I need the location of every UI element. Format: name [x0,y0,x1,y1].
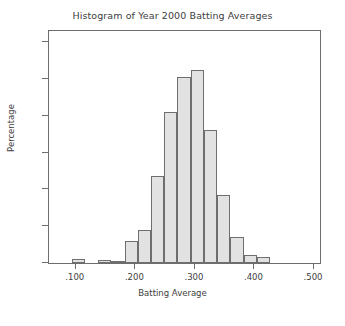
histogram-bar [204,130,217,263]
histogram-bar [177,77,190,263]
x-axis-tick-label: .300 [174,272,214,282]
histogram-bar [230,237,243,263]
y-axis-title: Percentage [6,78,16,178]
x-axis-tick-mark [253,264,254,269]
x-axis-tick-mark [75,264,76,269]
x-axis-tick-mark [194,264,195,269]
plot-frame [48,30,321,264]
histogram-bar [164,112,177,263]
chart-title: Histogram of Year 2000 Batting Averages [0,10,345,21]
histogram-bar [138,230,151,263]
histogram-bar [191,70,204,263]
x-axis-tick-label: .100 [55,272,95,282]
histogram-bar [151,176,164,263]
x-axis-tick-label: .400 [233,272,273,282]
plot-area [49,31,320,263]
histogram-bar [125,241,138,263]
x-axis-baseline [48,263,321,264]
x-axis-title: Batting Average [0,288,345,298]
x-axis-tick-mark [134,264,135,269]
histogram-figure: Histogram of Year 2000 Batting Averages … [0,0,345,326]
x-axis-tick-mark [313,264,314,269]
y-axis-ticks: Percentage 024681012 [0,0,48,326]
x-axis-tick-label: .500 [293,272,333,282]
x-axis-tick-label: .200 [114,272,154,282]
histogram-bar [217,195,230,263]
histogram-bar [244,255,257,263]
